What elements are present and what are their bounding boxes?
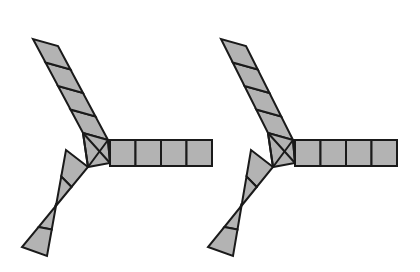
strip-cell [161, 140, 187, 166]
strip-cell [110, 140, 136, 166]
left-figure-right-horizontal-arm [110, 140, 212, 166]
strip-cell [295, 140, 321, 166]
canvas-background [0, 0, 420, 272]
strip-cell [321, 140, 347, 166]
strip-cell [187, 140, 213, 166]
strip-cell [346, 140, 372, 166]
figure-canvas [0, 0, 420, 272]
right-figure-right-horizontal-arm [295, 140, 397, 166]
strip-cell [372, 140, 398, 166]
strip-cell [136, 140, 162, 166]
